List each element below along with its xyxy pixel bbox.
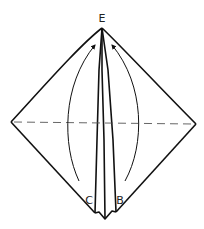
left-fold-arrow — [68, 45, 95, 181]
right-fold-arrow — [112, 45, 139, 181]
label-b: B — [116, 194, 124, 207]
lower-left-edge — [11, 122, 95, 213]
center-divider — [102, 28, 105, 219]
lower-right-edge — [116, 124, 196, 212]
flap-c-outer-edge — [95, 28, 102, 213]
upper-right-edge — [102, 28, 196, 124]
label-e: E — [99, 12, 106, 25]
origami-diagram: E C B — [0, 0, 204, 229]
label-c: C — [85, 194, 93, 207]
upper-left-edge — [11, 28, 102, 122]
